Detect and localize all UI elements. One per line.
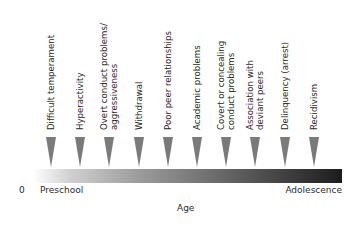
down-arrow-icon <box>104 137 114 167</box>
stage-label-text: Overt conduct problems/aggressiveness <box>99 23 119 130</box>
stage-label-line: Delinquency (arrest) <box>280 42 290 130</box>
down-arrow-icon <box>134 137 144 167</box>
axis-title: Age <box>177 203 194 214</box>
axis-end-label: Adolescence <box>285 185 342 196</box>
stage-label-line: Difficult temperament <box>46 35 56 130</box>
stage-label-line: Association with <box>245 60 255 130</box>
down-arrow-icon <box>163 137 173 167</box>
stage-label-text: Association withdeviant peers <box>245 60 265 130</box>
down-arrow-icon <box>250 137 260 167</box>
axis-start-label: Preschool <box>40 185 83 196</box>
down-arrow-icon <box>46 137 56 167</box>
stage-label-text: Academic problems <box>192 45 202 130</box>
stage-label-text: Covert or concealingconduct problems <box>216 41 236 130</box>
stage-label-text: Poor peer relationships <box>163 31 173 130</box>
down-arrow-icon <box>75 137 85 167</box>
stage-label-line: Overt conduct problems/ <box>99 23 109 130</box>
down-arrow-icon <box>280 137 290 167</box>
stage-label-text: Withdrawal <box>134 82 144 130</box>
stage-label-line: Recidivism <box>309 84 319 130</box>
axis-origin-label: 0 <box>19 185 25 196</box>
stage-label-line: Poor peer relationships <box>163 31 173 130</box>
stage-label-line: Withdrawal <box>134 82 144 130</box>
down-arrow-icon <box>192 137 202 167</box>
stage-label-line: Academic problems <box>192 45 202 130</box>
stage-label-line: Hyperactivity <box>75 72 85 130</box>
stage-label-line: aggressiveness <box>109 23 119 130</box>
stage-label-text: Delinquency (arrest) <box>280 42 290 130</box>
age-gradient-bar <box>33 169 342 183</box>
stage-label-text: Hyperactivity <box>75 72 85 130</box>
stage-label-line: Covert or concealing <box>216 41 226 130</box>
down-arrow-icon <box>221 137 231 167</box>
down-arrow-icon <box>309 137 319 167</box>
stage-label-text: Recidivism <box>309 84 319 130</box>
stage-label-line: deviant peers <box>255 60 265 130</box>
stage-label-text: Difficult temperament <box>46 35 56 130</box>
stage-label-line: conduct problems <box>226 41 236 130</box>
